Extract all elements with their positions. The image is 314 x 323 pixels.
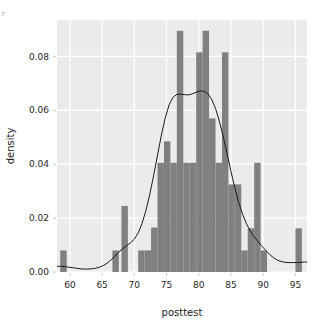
x-tick-label: 90: [257, 280, 269, 290]
chart-canvas: 0.000.020.040.060.08 6065707580859095 po…: [0, 0, 314, 323]
histogram-bar: [241, 250, 247, 272]
y-axis-title: density: [5, 128, 16, 165]
x-tick-label: 80: [193, 280, 205, 290]
histogram-bar: [190, 163, 196, 272]
x-tick-label: 85: [225, 280, 236, 290]
histogram-bar: [121, 206, 127, 272]
histogram-bar: [261, 250, 267, 272]
histogram-bar: [203, 31, 209, 272]
y-tick-label: 0.08: [29, 52, 49, 62]
histogram-bar: [151, 228, 157, 272]
histogram-bar: [145, 250, 151, 272]
histogram-bar: [295, 228, 301, 272]
y-tick-label: 0.02: [29, 213, 49, 223]
x-tick-label: 75: [161, 280, 172, 290]
histogram-bar: [228, 184, 234, 272]
x-tick-label: 65: [96, 280, 107, 290]
histogram-bar: [183, 163, 189, 272]
histogram-bar: [254, 163, 260, 272]
x-tick-label: 60: [64, 280, 76, 290]
histogram-bar: [222, 52, 228, 272]
histogram-bar: [138, 250, 144, 272]
histogram-bar: [158, 163, 164, 272]
x-tick-label: 95: [290, 280, 301, 290]
histogram-bar: [170, 163, 176, 272]
histogram-bar: [209, 118, 215, 272]
corner-mark-text: r: [2, 10, 5, 18]
density-histogram-figure: 0.000.020.040.060.08 6065707580859095 po…: [0, 0, 314, 323]
histogram-bar: [196, 52, 202, 272]
y-tick-label: 0.06: [29, 105, 49, 115]
x-axis-title: posttest: [162, 307, 203, 318]
histogram-bar: [235, 184, 241, 272]
histogram-bar: [164, 141, 170, 272]
y-tick-label: 0.04: [29, 159, 49, 169]
x-tick-label: 70: [129, 280, 141, 290]
y-tick-label: 0.00: [29, 267, 49, 277]
histogram-bar: [60, 250, 66, 272]
histogram-bar: [216, 163, 222, 272]
histogram-bar: [177, 31, 183, 272]
